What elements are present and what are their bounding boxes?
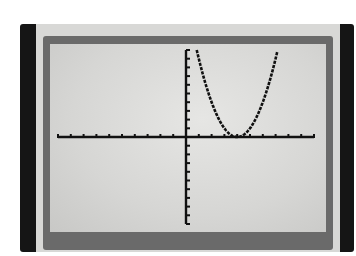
graph-plot [0, 0, 356, 256]
function-curve [197, 50, 278, 137]
